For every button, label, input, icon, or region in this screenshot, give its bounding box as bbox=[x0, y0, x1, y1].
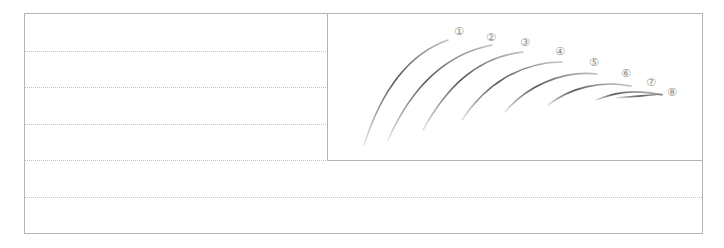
illustration-box bbox=[327, 13, 703, 161]
dotted-guide-line-4 bbox=[25, 160, 326, 161]
dotted-guide-line-3 bbox=[25, 124, 326, 125]
dotted-guide-line-5 bbox=[25, 197, 702, 198]
dotted-guide-line-2 bbox=[25, 87, 326, 88]
dotted-guide-line-1 bbox=[25, 51, 326, 52]
